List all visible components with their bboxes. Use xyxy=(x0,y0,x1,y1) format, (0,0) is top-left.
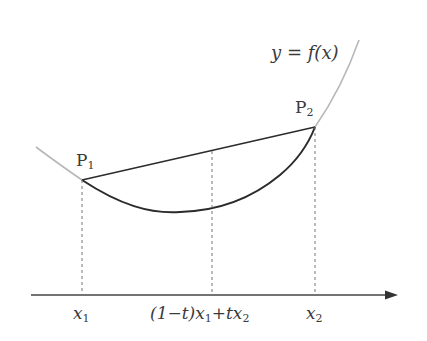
axis-label-x2: x2 xyxy=(306,305,323,324)
axis-label-xt: (1−t)x1+tx2 xyxy=(150,305,249,324)
p2-sub: 2 xyxy=(306,106,313,119)
xt-sub: 1 xyxy=(205,312,212,325)
point-label-p2: P2 xyxy=(295,99,313,118)
p1-name: P xyxy=(76,150,87,170)
x2-main: x xyxy=(306,303,316,323)
xt-tail: +tx xyxy=(212,303,243,323)
curve-label-text: y = f(x) xyxy=(271,42,339,63)
p2-name: P xyxy=(295,97,306,117)
x1-sub: 1 xyxy=(83,312,90,325)
x-axis-arrow-icon xyxy=(385,291,398,300)
p1-sub: 1 xyxy=(87,159,94,172)
x2-sub: 2 xyxy=(316,312,323,325)
x1-main: x xyxy=(73,303,83,323)
curve-arc-dark xyxy=(82,127,315,212)
axis-label-x1: x1 xyxy=(73,305,90,324)
convexity-diagram: y = f(x) P1 P2 x1 (1−t)x1+tx2 x2 xyxy=(0,0,427,341)
chord-p1-p2 xyxy=(82,127,315,180)
curve-label: y = f(x) xyxy=(271,44,339,62)
xt-main: (1−t)x xyxy=(150,303,205,323)
diagram-canvas xyxy=(0,0,427,341)
point-label-p1: P1 xyxy=(76,152,94,171)
xt-tail-sub: 2 xyxy=(242,312,249,325)
